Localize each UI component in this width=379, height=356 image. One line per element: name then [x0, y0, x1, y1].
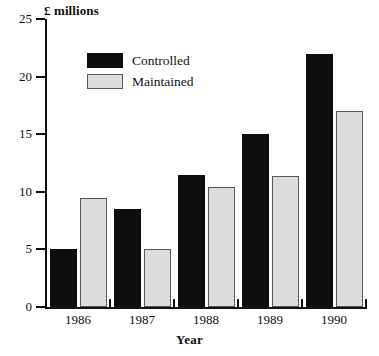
- legend-swatch-icon: [87, 74, 123, 89]
- x-tick-label: 1990: [302, 312, 366, 327]
- y-tick-mark: [36, 248, 45, 250]
- x-tick-label: 1988: [174, 312, 238, 327]
- legend-label: Maintained: [132, 74, 193, 89]
- legend-swatch-icon: [87, 53, 123, 68]
- bar-1988-maintained: [208, 187, 235, 307]
- legend-item-controlled: Controlled: [87, 51, 193, 69]
- y-tick-mark: [36, 306, 45, 308]
- y-tick-label: 25: [6, 12, 32, 25]
- bar-chart: £ millions 0510152025 198619871988198919…: [0, 0, 379, 356]
- bar-1989-controlled: [242, 134, 269, 307]
- bar-1986-maintained: [80, 198, 107, 307]
- bar-1986-controlled: [50, 249, 77, 307]
- x-tick-label: 1987: [110, 312, 174, 327]
- bar-1990-controlled: [306, 54, 333, 307]
- y-axis-title: £ millions: [44, 3, 99, 19]
- y-tick-label: 5: [6, 242, 32, 255]
- y-tick-label: 20: [6, 70, 32, 83]
- x-tick-label: 1986: [46, 312, 110, 327]
- legend-label: Controlled: [132, 53, 190, 68]
- bar-1990-maintained: [336, 111, 363, 307]
- y-tick-label: 0: [6, 300, 32, 313]
- x-axis-title: Year: [0, 332, 379, 348]
- y-tick-label: 15: [6, 127, 32, 140]
- y-tick-mark: [36, 76, 45, 78]
- chart-legend: ControlledMaintained: [87, 51, 193, 93]
- y-tick-label: 10: [6, 185, 32, 198]
- bar-1987-maintained: [144, 249, 171, 307]
- x-tick-label: 1989: [238, 312, 302, 327]
- y-tick-mark: [36, 133, 45, 135]
- legend-item-maintained: Maintained: [87, 72, 193, 90]
- bar-1987-controlled: [114, 209, 141, 307]
- x-axis-line: [45, 307, 367, 309]
- bar-1988-controlled: [178, 175, 205, 307]
- bar-1989-maintained: [272, 176, 299, 307]
- y-tick-mark: [36, 18, 45, 20]
- y-tick-mark: [36, 191, 45, 193]
